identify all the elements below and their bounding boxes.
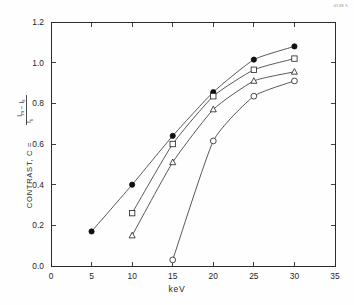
y-tick-label: 1.0 bbox=[32, 58, 44, 68]
x-tick-label: 25 bbox=[249, 271, 259, 281]
figure-root: 4138 5 05101520253035 0.00.20.40.60.81.0… bbox=[0, 0, 354, 305]
curve-open-square bbox=[132, 59, 294, 214]
x-tick-label: 20 bbox=[209, 271, 219, 281]
x-tick-label: 30 bbox=[290, 271, 300, 281]
y-tick-label: 0.8 bbox=[32, 98, 44, 108]
x-tick-label: 5 bbox=[89, 271, 94, 281]
data-point-open-circle bbox=[170, 257, 176, 263]
data-point-filled-circle bbox=[130, 182, 135, 187]
data-point-filled-circle bbox=[89, 229, 94, 234]
y-axis-tick-labels: 0.00.20.40.60.81.01.2 bbox=[32, 17, 44, 271]
data-point-filled-circle bbox=[292, 44, 297, 49]
y-axis-fraction: Im − Is Is bbox=[16, 95, 34, 125]
data-point-open-square bbox=[129, 210, 134, 215]
data-curves bbox=[92, 46, 295, 260]
data-point-open-triangle bbox=[129, 232, 135, 238]
x-tick-label: 0 bbox=[49, 271, 54, 281]
data-point-open-square bbox=[170, 141, 175, 146]
data-point-filled-circle bbox=[251, 57, 256, 62]
y-tick-label: 1.2 bbox=[32, 17, 44, 27]
data-point-filled-circle bbox=[170, 133, 175, 138]
curve-open-circle bbox=[173, 81, 295, 260]
data-point-open-circle bbox=[210, 138, 216, 144]
data-point-open-circle bbox=[251, 93, 257, 99]
data-point-open-triangle bbox=[291, 69, 297, 75]
x-axis-tick-labels: 05101520253035 bbox=[49, 271, 340, 281]
y-axis-title: CONTRAST, C = Im − Is Is bbox=[16, 95, 34, 208]
y-tick-label: 0.0 bbox=[32, 261, 44, 271]
y-tick-label: 0.4 bbox=[32, 180, 44, 190]
data-markers bbox=[89, 44, 297, 263]
contrast-vs-kev-chart: 05101520253035 0.00.20.40.60.81.01.2 keV… bbox=[0, 0, 354, 305]
curve-filled-circle bbox=[92, 46, 295, 231]
data-point-open-square bbox=[251, 67, 256, 72]
y-tick-label: 0.2 bbox=[32, 220, 44, 230]
fraction-numerator: Im − Is bbox=[16, 99, 27, 117]
x-tick-label: 15 bbox=[168, 271, 178, 281]
data-point-open-square bbox=[211, 94, 216, 99]
data-point-open-square bbox=[292, 56, 297, 61]
data-point-open-circle bbox=[292, 78, 298, 84]
x-axis-title: keV bbox=[168, 284, 185, 294]
y-tick-label: 0.6 bbox=[32, 139, 44, 149]
y-axis-title-text: CONTRAST, C = bbox=[25, 142, 34, 208]
x-tick-label: 35 bbox=[330, 271, 340, 281]
x-tick-label: 10 bbox=[127, 271, 137, 281]
